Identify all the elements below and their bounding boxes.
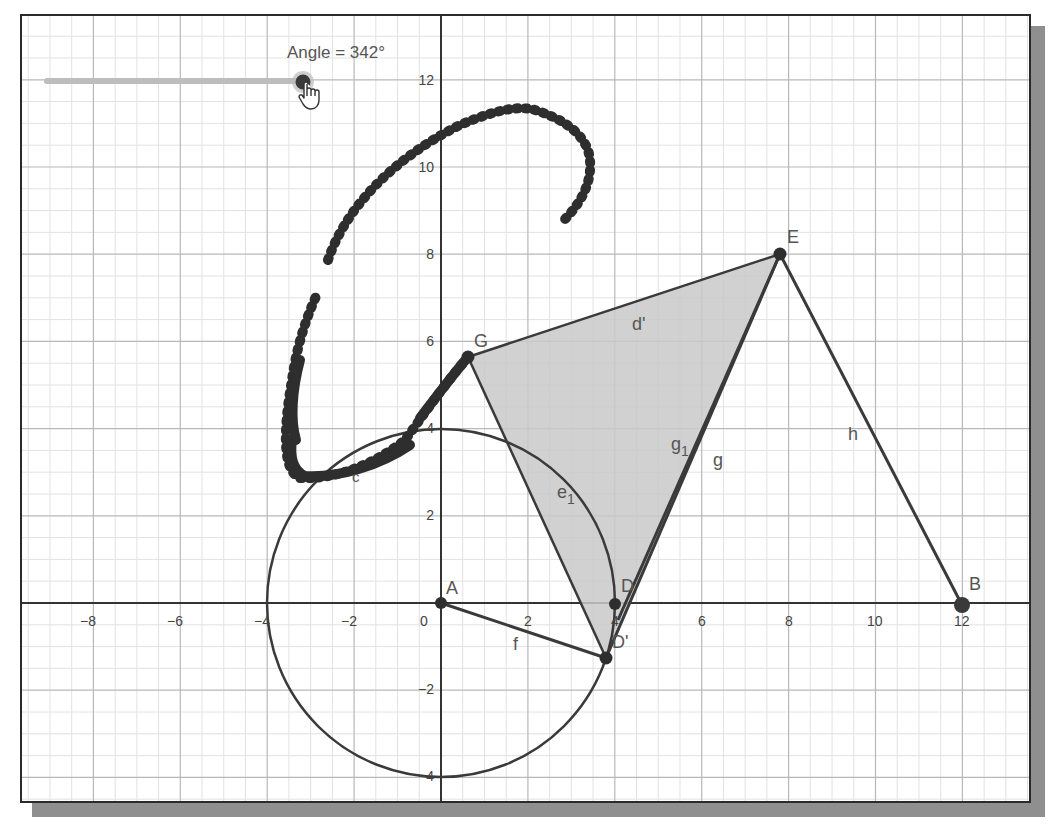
x-tick: −8 (80, 613, 96, 629)
y-tick: −2 (418, 681, 434, 697)
label-d-prime: D' (612, 632, 628, 652)
x-tick: 0 (420, 613, 428, 629)
x-tick: −4 (254, 613, 270, 629)
x-tick: 10 (867, 613, 883, 629)
y-tick: 2 (426, 507, 434, 523)
point-d-prime[interactable] (600, 652, 613, 665)
y-tick: −4 (418, 768, 434, 784)
y-tick: 12 (418, 72, 434, 88)
point-d[interactable] (609, 598, 621, 610)
y-tick: 6 (426, 333, 434, 349)
x-tick: 12 (954, 613, 970, 629)
point-e[interactable] (774, 248, 787, 261)
segment-h[interactable] (780, 254, 962, 605)
x-tick: −2 (341, 613, 357, 629)
x-tick: 8 (785, 613, 793, 629)
point-g[interactable] (462, 351, 475, 364)
label-a: A (446, 578, 458, 598)
label-e: E (787, 227, 799, 247)
x-tick: 6 (698, 613, 706, 629)
x-tick: 2 (524, 613, 532, 629)
y-tick: 4 (426, 420, 434, 436)
label-d: D (621, 576, 634, 596)
y-tick: 10 (418, 159, 434, 175)
y-tick: 8 (426, 246, 434, 262)
segment-f[interactable] (441, 603, 606, 658)
label-g: G (474, 331, 488, 351)
point-b[interactable] (954, 597, 970, 613)
point-a[interactable] (435, 597, 447, 609)
x-tick: 4 (611, 613, 619, 629)
triangle-polygon[interactable] (468, 254, 780, 658)
geometry-canvas[interactable]: −8 −6 −4 −2 0 2 4 6 8 10 12 12 10 8 6 4 … (0, 0, 1059, 836)
label-b: B (969, 574, 981, 594)
x-tick: −6 (167, 613, 183, 629)
label-d-prime-seg: d' (632, 314, 645, 334)
label-f: f (513, 634, 519, 654)
label-h: h (848, 424, 858, 444)
label-c: c (352, 468, 360, 485)
label-g-seg: g (713, 450, 723, 470)
angle-slider-label: Angle = 342° (287, 43, 385, 62)
